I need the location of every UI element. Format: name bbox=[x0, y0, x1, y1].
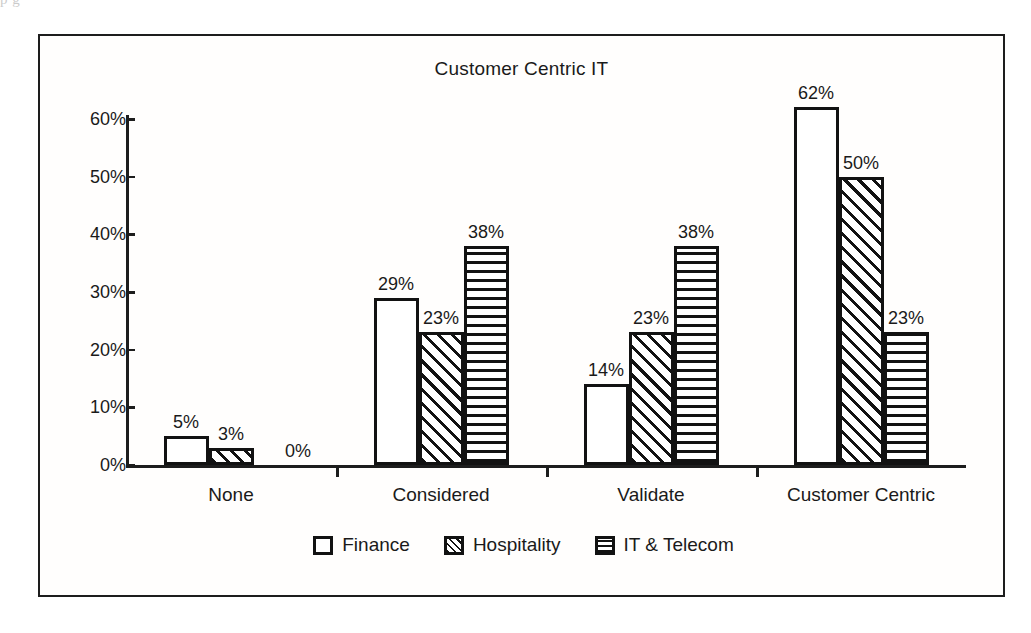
bar-value-label: 14% bbox=[588, 360, 624, 381]
chart-frame: Customer Centric IT 0%10%20%30%40%50%60%… bbox=[38, 34, 1005, 597]
bar-value-label: 38% bbox=[468, 222, 504, 243]
y-tick-label: 0% bbox=[70, 455, 126, 476]
bar-value-label: 62% bbox=[798, 83, 834, 104]
legend-item-it-telecom[interactable]: IT & Telecom bbox=[595, 534, 734, 556]
y-tick-mark bbox=[126, 406, 135, 409]
x-tick-mark bbox=[546, 467, 549, 477]
category-label-none: None bbox=[208, 484, 253, 506]
category-label-considered: Considered bbox=[392, 484, 489, 506]
scan-artifact-text: p g bbox=[0, 0, 20, 8]
bar-finance-considered[interactable] bbox=[374, 298, 419, 465]
bar-value-label: 3% bbox=[218, 424, 244, 445]
y-tick-label: 20% bbox=[70, 339, 126, 360]
bar-value-label: 38% bbox=[678, 222, 714, 243]
legend-swatch-icon bbox=[444, 536, 464, 555]
bar-it-telecom-considered[interactable] bbox=[464, 246, 509, 465]
bar-hospitality-validate[interactable] bbox=[629, 332, 674, 465]
category-label-validate: Validate bbox=[617, 484, 684, 506]
y-tick-mark bbox=[126, 349, 135, 352]
bar-hospitality-none[interactable] bbox=[209, 448, 254, 465]
y-tick-mark bbox=[126, 233, 135, 236]
y-tick-label: 60% bbox=[70, 109, 126, 130]
legend-label: Hospitality bbox=[473, 534, 561, 556]
bar-it-telecom-customer-centric[interactable] bbox=[884, 332, 929, 465]
legend-swatch-icon bbox=[595, 536, 615, 555]
category-label-customer-centric: Customer Centric bbox=[787, 484, 935, 506]
bar-value-label: 23% bbox=[633, 308, 669, 329]
x-tick-mark bbox=[756, 467, 759, 477]
bar-value-label: 50% bbox=[843, 153, 879, 174]
scanned-page-artifact: p g bbox=[0, 0, 1031, 26]
y-tick-mark bbox=[126, 118, 135, 121]
x-tick-mark bbox=[336, 467, 339, 477]
bar-hospitality-customer-centric[interactable] bbox=[839, 177, 884, 465]
bar-hospitality-considered[interactable] bbox=[419, 332, 464, 465]
legend-item-hospitality[interactable]: Hospitality bbox=[444, 534, 561, 556]
y-tick-label: 50% bbox=[70, 166, 126, 187]
bar-value-label: 5% bbox=[173, 412, 199, 433]
y-tick-label: 40% bbox=[70, 224, 126, 245]
legend-label: IT & Telecom bbox=[624, 534, 734, 556]
legend-swatch-icon bbox=[313, 536, 333, 555]
bar-value-label: 23% bbox=[423, 308, 459, 329]
y-tick-label: 30% bbox=[70, 282, 126, 303]
bar-finance-none[interactable] bbox=[164, 436, 209, 465]
bar-value-label: 29% bbox=[378, 274, 414, 295]
bar-value-label: 23% bbox=[888, 308, 924, 329]
y-tick-mark bbox=[126, 291, 135, 294]
bar-finance-validate[interactable] bbox=[584, 384, 629, 465]
chart-legend: FinanceHospitalityIT & Telecom bbox=[40, 534, 1007, 556]
plot-area: 0%10%20%30%40%50%60% 5%3%0%29%23%38%14%2… bbox=[40, 36, 1007, 599]
legend-item-finance[interactable]: Finance bbox=[313, 534, 410, 556]
y-tick-label: 10% bbox=[70, 397, 126, 418]
bar-value-label: 0% bbox=[285, 441, 311, 462]
legend-label: Finance bbox=[342, 534, 410, 556]
y-tick-mark bbox=[126, 464, 135, 467]
bar-it-telecom-validate[interactable] bbox=[674, 246, 719, 465]
y-tick-mark bbox=[126, 176, 135, 179]
bar-finance-customer-centric[interactable] bbox=[794, 107, 839, 465]
